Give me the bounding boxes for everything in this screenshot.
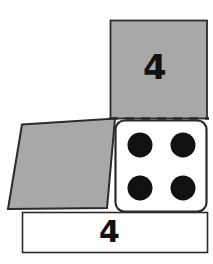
net-drawing-canvas	[0, 0, 213, 264]
dice-pip-bottom-left	[128, 176, 153, 201]
bottom-face-panel	[23, 213, 208, 253]
dice-pip-top-right	[171, 133, 196, 158]
dice-pip-bottom-right	[171, 176, 196, 201]
top-face-panel	[111, 21, 208, 119]
dice-face-panel	[116, 121, 207, 212]
left-face-panel	[8, 119, 115, 210]
dice-pip-top-left	[128, 133, 153, 158]
dice-net-figure: 4 4	[0, 0, 213, 264]
